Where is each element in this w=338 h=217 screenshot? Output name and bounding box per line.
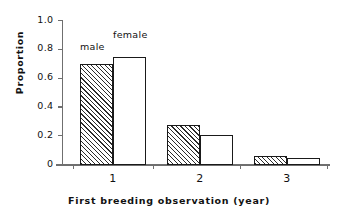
x-tick-boundary-1: [153, 164, 154, 169]
y-tick-2: 0.8: [58, 49, 63, 50]
x-tick-label-2: 2: [185, 172, 215, 185]
bar-male-year-3: [254, 156, 287, 165]
y-axis-line: [62, 20, 63, 165]
y-tick-label-4: 0.4: [20, 100, 54, 111]
y-tick-1: 1.0: [58, 20, 63, 21]
y-tick-6: 0: [58, 164, 63, 165]
bar-male-year-1: [80, 64, 113, 165]
y-tick-5: 0.2: [58, 135, 63, 136]
series-label-female: female: [113, 29, 148, 40]
bar-female-year-1: [113, 57, 146, 165]
bar-chart-figure: Proportion 1.0 0.8 0.6 0.4 0.2 0: [0, 0, 338, 217]
y-tick-label-1: 1.0: [20, 14, 54, 25]
x-tick-boundary-3: [327, 164, 328, 169]
x-tick-label-1: 1: [98, 172, 128, 185]
series-label-male: male: [80, 41, 105, 52]
x-tick-boundary-0: [73, 164, 74, 169]
y-tick-label-2: 0.8: [20, 42, 54, 53]
bar-male-year-2: [167, 125, 200, 165]
y-tick-4: 0.4: [58, 106, 63, 107]
y-tick-label-6: 0: [20, 158, 54, 169]
y-tick-label-5: 0.2: [20, 129, 54, 140]
bar-female-year-3: [287, 158, 320, 165]
x-axis-title: First breeding observation (year): [0, 195, 338, 206]
y-tick-label-3: 0.6: [20, 71, 54, 82]
bar-female-year-2: [200, 135, 233, 165]
x-tick-label-3: 3: [272, 172, 302, 185]
x-tick-boundary-2: [240, 164, 241, 169]
y-tick-3: 0.6: [58, 78, 63, 79]
